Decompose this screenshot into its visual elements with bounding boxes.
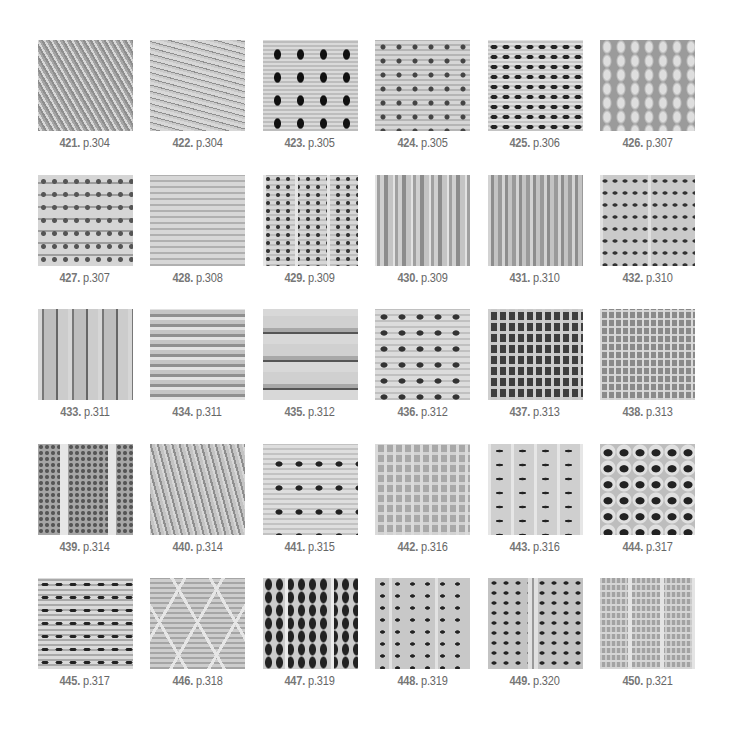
- stitch-card: 448. p.319: [375, 578, 471, 713]
- stitch-caption: 422. p.304: [172, 136, 222, 150]
- stitch-card: 435. p.312: [262, 309, 358, 444]
- stitch-swatch-image: [488, 578, 583, 669]
- stitch-swatch-image: [263, 175, 358, 266]
- stitch-caption: 450. p.321: [622, 674, 672, 688]
- stitch-caption: 449. p.320: [510, 674, 560, 688]
- stitch-caption: 440. p.314: [172, 540, 222, 554]
- stitch-number: 439.: [60, 540, 81, 554]
- stitch-number: 446.: [172, 674, 193, 688]
- stitch-swatch-image: [150, 175, 245, 266]
- stitch-row: 445. p.317 446. p.318 447. p.319 448. p.…: [37, 578, 699, 713]
- stitch-caption: 424. p.305: [397, 136, 447, 150]
- stitch-row: 427. p.307 428. p.308 429. p.309 430. p.…: [37, 175, 699, 310]
- stitch-caption: 425. p.306: [510, 136, 560, 150]
- stitch-number: 429.: [285, 271, 306, 285]
- page-reference: p.314: [83, 540, 110, 554]
- stitch-number: 441.: [285, 540, 306, 554]
- stitch-card: 430. p.309: [375, 175, 471, 310]
- page-reference: p.314: [196, 540, 223, 554]
- stitch-caption: 428. p.308: [172, 271, 222, 285]
- stitch-card: 426. p.307: [600, 40, 696, 175]
- page-reference: p.308: [196, 271, 223, 285]
- stitch-swatch-image: [488, 444, 583, 535]
- stitch-caption: 434. p.311: [173, 405, 222, 419]
- page-reference: p.319: [421, 674, 448, 688]
- stitch-number: 445.: [60, 674, 81, 688]
- stitch-caption: 436. p.312: [397, 405, 447, 419]
- stitch-swatch-image: [38, 40, 133, 131]
- stitch-caption: 437. p.313: [510, 405, 560, 419]
- stitch-swatch-image: [150, 40, 245, 131]
- page-reference: p.309: [308, 271, 335, 285]
- stitch-caption: 430. p.309: [397, 271, 447, 285]
- stitch-caption: 421. p.304: [60, 136, 110, 150]
- stitch-card: 434. p.311: [150, 309, 246, 444]
- stitch-number: 427.: [60, 271, 81, 285]
- stitch-swatch-image: [38, 309, 133, 400]
- stitch-card: 433. p.311: [37, 309, 133, 444]
- stitch-number: 434.: [173, 405, 194, 419]
- stitch-row: 439. p.314 440. p.314 441. p.315 442. p.…: [37, 444, 699, 579]
- page-reference: p.317: [646, 540, 673, 554]
- stitch-swatch-image: [263, 309, 358, 400]
- stitch-card: 437. p.313: [487, 309, 583, 444]
- stitch-swatch-image: [375, 40, 470, 131]
- stitch-caption: 439. p.314: [60, 540, 110, 554]
- page-reference: p.317: [83, 674, 110, 688]
- stitch-caption: 441. p.315: [285, 540, 335, 554]
- page-reference: p.309: [421, 271, 448, 285]
- stitch-card: 423. p.305: [262, 40, 358, 175]
- page-reference: p.316: [533, 540, 560, 554]
- page-reference: p.310: [533, 271, 560, 285]
- stitch-number: 437.: [510, 405, 531, 419]
- stitch-card: 446. p.318: [150, 578, 246, 713]
- page-reference: p.304: [196, 136, 223, 150]
- stitch-swatch-image: [600, 40, 695, 131]
- stitch-row: 433. p.311 434. p.311 435. p.312 436. p.…: [37, 309, 699, 444]
- stitch-number: 424.: [397, 136, 418, 150]
- stitch-swatch-image: [488, 175, 583, 266]
- stitch-number: 423.: [285, 136, 306, 150]
- stitch-card: 439. p.314: [37, 444, 133, 579]
- stitch-caption: 438. p.313: [622, 405, 672, 419]
- stitch-card: 450. p.321: [600, 578, 696, 713]
- stitch-swatch-image: [38, 444, 133, 535]
- stitch-card: 425. p.306: [487, 40, 583, 175]
- stitch-card: 428. p.308: [150, 175, 246, 310]
- stitch-caption: 442. p.316: [397, 540, 447, 554]
- stitch-number: 428.: [172, 271, 193, 285]
- stitch-number: 436.: [397, 405, 418, 419]
- stitch-card: 445. p.317: [37, 578, 133, 713]
- page-reference: p.307: [83, 271, 110, 285]
- stitch-grid: 421. p.304 422. p.304 423. p.305 424. p.…: [37, 40, 699, 713]
- stitch-card: 441. p.315: [262, 444, 358, 579]
- stitch-card: 442. p.316: [375, 444, 471, 579]
- stitch-card: 449. p.320: [487, 578, 583, 713]
- stitch-number: 432.: [622, 271, 643, 285]
- stitch-swatch-image: [150, 444, 245, 535]
- stitch-number: 438.: [622, 405, 643, 419]
- page-reference: p.312: [308, 405, 335, 419]
- page-reference: p.313: [533, 405, 560, 419]
- stitch-swatch-image: [600, 578, 695, 669]
- stitch-swatch-image: [263, 444, 358, 535]
- page-reference: p.316: [421, 540, 448, 554]
- stitch-number: 435.: [285, 405, 306, 419]
- stitch-swatch-image: [375, 309, 470, 400]
- stitch-row: 421. p.304 422. p.304 423. p.305 424. p.…: [37, 40, 699, 175]
- stitch-card: 427. p.307: [37, 175, 133, 310]
- stitch-card: 436. p.312: [375, 309, 471, 444]
- stitch-number: 426.: [622, 136, 643, 150]
- stitch-number: 433.: [60, 405, 81, 419]
- stitch-number: 449.: [510, 674, 531, 688]
- stitch-caption: 447. p.319: [285, 674, 335, 688]
- stitch-card: 440. p.314: [150, 444, 246, 579]
- stitch-card: 438. p.313: [600, 309, 696, 444]
- page-reference: p.305: [308, 136, 335, 150]
- page-reference: p.318: [196, 674, 223, 688]
- stitch-card: 447. p.319: [262, 578, 358, 713]
- stitch-caption: 435. p.312: [285, 405, 335, 419]
- page-reference: p.313: [646, 405, 673, 419]
- page-reference: p.306: [533, 136, 560, 150]
- stitch-number: 442.: [397, 540, 418, 554]
